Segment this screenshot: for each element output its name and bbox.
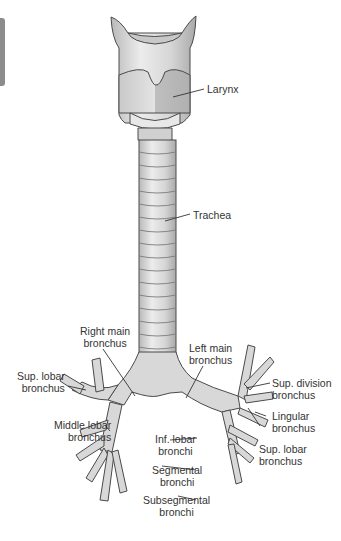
label-lingular-bronchus: Lingular bronchus — [272, 410, 315, 434]
label-right-sup-lobar-bronchus: Sup. lobar bronchus — [17, 370, 65, 394]
label-trachea: Trachea — [193, 209, 231, 221]
label-right-main-bronchus: Right main bronchus — [80, 325, 130, 349]
label-left-main-bronchus: Left main bronchus — [189, 342, 232, 366]
label-segmental-bronchi: Segmental bronchi — [152, 464, 202, 488]
label-left-sup-lobar-bronchus: Sup. lobar bronchus — [259, 443, 307, 467]
label-subsegmental-bronchi: Subsegmental bronchi — [143, 494, 210, 518]
label-sup-division-bronchus: Sup. division bronchus — [272, 377, 332, 401]
trachea-shape — [139, 140, 176, 355]
label-inf-lobar-bronchi: Inf. lobar bronchi — [155, 433, 196, 457]
label-larynx: Larynx — [207, 83, 239, 95]
anatomy-figure: Larynx Trachea Right main bronchus Left … — [0, 0, 341, 541]
larynx-shape — [111, 16, 196, 143]
label-middle-lobar-bronchus: Middle lobar bronchus — [54, 419, 111, 443]
